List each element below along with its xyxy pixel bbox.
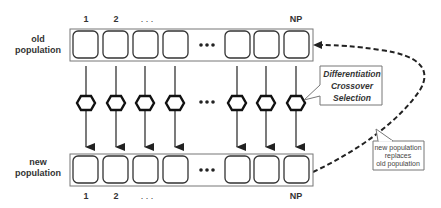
- new-index-np: NP: [290, 191, 303, 201]
- new-index-ellipsis: . . .: [141, 191, 154, 201]
- new-individual-cell: [73, 156, 98, 183]
- old-population-label-line1: old: [31, 34, 45, 44]
- old-population-label-line2: population: [15, 45, 61, 55]
- note-line2: replaces: [385, 152, 412, 160]
- old-individual-cell: [133, 31, 158, 58]
- new-population-label-line1: new: [29, 157, 48, 167]
- operator-hexagon-icon: [228, 96, 246, 110]
- note-line1: new population: [374, 144, 421, 152]
- operator-hexagon-icon: [287, 96, 305, 110]
- old-index-1: 1: [83, 14, 88, 24]
- old-individual-cell: [103, 31, 128, 58]
- arrowhead-left-icon: [313, 41, 322, 49]
- operator-hexagon-icon: [257, 96, 275, 110]
- replacement-note: new population replaces old population: [373, 129, 424, 170]
- new-index-1: 1: [83, 191, 88, 201]
- middle-ellipsis: [199, 100, 215, 104]
- new-individual-cell: [254, 156, 279, 183]
- old-individual-cell: [163, 31, 188, 58]
- callout-crossover: Crossover: [331, 81, 374, 91]
- old-individual-cell: [284, 31, 309, 58]
- operator-hexagons: [77, 96, 305, 110]
- operators-callout: Differentiation Crossover Selection: [304, 66, 382, 105]
- new-individual-cell: [284, 156, 309, 183]
- new-individual-cell: [225, 156, 250, 183]
- new-population-label-line2: population: [15, 168, 61, 178]
- callout-differentiation: Differentiation: [323, 69, 380, 79]
- old-individual-cell: [73, 31, 98, 58]
- callout-selection: Selection: [333, 93, 371, 103]
- operator-hexagon-icon: [166, 96, 184, 110]
- old-index-np: NP: [290, 14, 303, 24]
- new-individual-cell: [163, 156, 188, 183]
- de-diagram: 1 2 . . . NP old population: [0, 0, 441, 208]
- old-index-ellipsis: . . .: [141, 14, 154, 24]
- note-line3: old population: [376, 160, 420, 168]
- old-population-row: [70, 29, 313, 61]
- new-index-2: 2: [113, 191, 118, 201]
- old-individual-cell: [254, 31, 279, 58]
- new-population-row: [70, 154, 313, 186]
- old-index-2: 2: [113, 14, 118, 24]
- new-individual-cell: [103, 156, 128, 183]
- new-individual-cell: [133, 156, 158, 183]
- operator-hexagon-icon: [77, 96, 95, 110]
- operator-hexagon-icon: [136, 96, 154, 110]
- operator-hexagon-icon: [107, 96, 125, 110]
- old-individual-cell: [225, 31, 250, 58]
